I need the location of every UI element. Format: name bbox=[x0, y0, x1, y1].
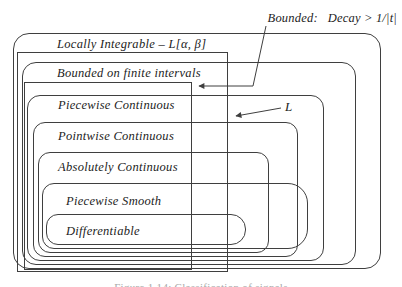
annotation-bounded-decay: Bounded: Decay > 1/|t| bbox=[268, 11, 397, 26]
set-label-absolutely-continuous: Absolutely Continuous bbox=[58, 160, 178, 174]
set-label-piecewise-continuous: Piecewise Continuous bbox=[58, 98, 175, 112]
function-classes-diagram: Locally Integrable – L[α, β] Bounded on … bbox=[0, 0, 402, 287]
set-label-locally-integrable: Locally Integrable – L[α, β] bbox=[57, 37, 206, 51]
set-label-piecewise-smooth: Piecewise Smooth bbox=[66, 194, 161, 208]
set-label-differentiable: Differentiable bbox=[66, 224, 140, 238]
l-space-pointer-arrow bbox=[236, 108, 281, 116]
set-label-bounded-finite-intervals: Bounded on finite intervals bbox=[57, 66, 201, 80]
annotation-l-space: L bbox=[285, 99, 292, 115]
set-label-pointwise-continuous: Pointwise Continuous bbox=[58, 129, 174, 143]
figure-caption: Figure 1.14: Classification of signals bbox=[0, 281, 402, 287]
set-rect-piecewise-smooth bbox=[42, 183, 308, 249]
bounded-decay-pointer-arrow bbox=[199, 26, 266, 86]
